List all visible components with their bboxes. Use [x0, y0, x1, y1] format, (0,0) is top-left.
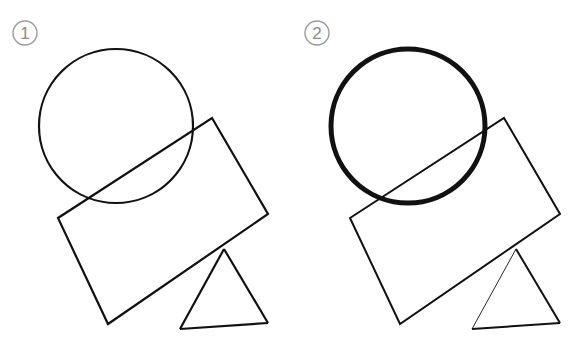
triangle-edge-bottom	[472, 323, 560, 329]
triangle-edge-left	[472, 249, 516, 329]
triangle-edge-left	[180, 249, 224, 329]
panel-2-badge: 2	[305, 21, 329, 45]
shape-rectangle[interactable]	[350, 118, 560, 324]
triangle-edge-right	[516, 249, 560, 323]
comparison-stage: 1 2	[0, 0, 585, 337]
panel-1-badge: 1	[13, 21, 37, 45]
panel-1-figure: 1	[0, 0, 292, 337]
triangle-edge-right	[224, 249, 268, 323]
badge-number: 1	[20, 24, 29, 43]
panel-2[interactable]: 2	[292, 0, 584, 337]
shape-triangle[interactable]	[472, 249, 560, 329]
panel-1[interactable]: 1	[0, 0, 292, 337]
badge-number: 2	[312, 24, 321, 43]
panel-2-figure: 2	[292, 0, 584, 337]
triangle-edge-bottom	[180, 323, 268, 329]
shape-rectangle[interactable]	[58, 118, 268, 324]
shape-triangle[interactable]	[180, 249, 268, 329]
